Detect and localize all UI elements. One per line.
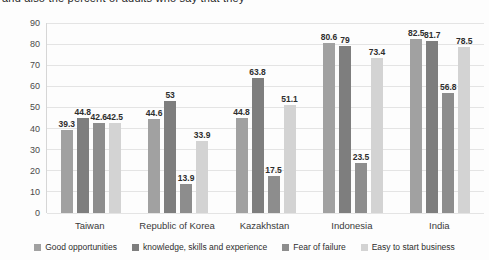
plot-area: 39.344.842.642.544.65313.933.944.863.817… — [46, 23, 484, 213]
bar-value-label: 42.5 — [106, 112, 123, 122]
bar-group-kazakhstan: 44.863.817.551.1 — [222, 23, 309, 213]
bar-wrap: 81.7 — [426, 41, 438, 213]
bar-wrap: 13.9 — [180, 184, 192, 213]
bar-value-label: 17.5 — [265, 165, 282, 175]
x-category-label: Taiwan — [46, 220, 133, 231]
y-tick-label: 30 — [18, 146, 40, 155]
legend-label: knowledge, skills and experience — [143, 242, 267, 252]
bar-group-indonesia: 80.67923.573.4 — [309, 23, 396, 213]
bar — [109, 123, 121, 213]
bar-wrap: 39.3 — [61, 130, 73, 213]
legend-label: Fear of failure — [293, 242, 345, 252]
bar-wrap: 51.1 — [284, 105, 296, 213]
bar-wrap: 79 — [339, 46, 351, 213]
y-tick-label: 0 — [18, 209, 40, 218]
bar-value-label: 51.1 — [281, 94, 298, 104]
bar-wrap: 33.9 — [196, 141, 208, 213]
bar-value-label: 39.3 — [58, 119, 75, 129]
x-category-label: Kazakhstan — [221, 220, 308, 231]
y-tick-label: 70 — [18, 61, 40, 70]
legend-swatch-icon — [282, 244, 289, 251]
bar-value-label: 23.5 — [353, 152, 370, 162]
bar — [268, 176, 280, 213]
bars: 44.65313.933.9 — [148, 23, 208, 213]
bar — [77, 118, 89, 213]
bar-value-label: 56.8 — [440, 82, 457, 92]
bar-value-label: 42.6 — [90, 112, 107, 122]
legend-label: Good opportunities — [45, 242, 117, 252]
bar — [339, 46, 351, 213]
bar-wrap: 44.8 — [236, 118, 248, 213]
bar — [355, 163, 367, 213]
bars: 82.581.756.878.5 — [410, 23, 470, 213]
bar-group-republic-of-korea: 44.65313.933.9 — [134, 23, 221, 213]
bar-value-label: 13.9 — [178, 173, 195, 183]
bar-wrap: 23.5 — [355, 163, 367, 213]
bar-value-label: 44.8 — [74, 107, 91, 117]
bar-wrap: 42.5 — [109, 123, 121, 213]
bar — [93, 123, 105, 213]
bar — [61, 130, 73, 213]
legend-label: Easy to start business — [372, 242, 455, 252]
x-category-label: Indonesia — [308, 220, 395, 231]
bar — [236, 118, 248, 213]
bar-value-label: 73.4 — [369, 47, 386, 57]
bar-wrap: 44.8 — [77, 118, 89, 213]
legend-item: knowledge, skills and experience — [132, 242, 267, 252]
bar-value-label: 81.7 — [424, 30, 441, 40]
bar-wrap: 56.8 — [442, 93, 454, 213]
bar-wrap: 82.5 — [410, 39, 422, 213]
bar — [164, 101, 176, 213]
legend-swatch-icon — [132, 244, 139, 251]
y-tick-label: 10 — [18, 188, 40, 197]
bar-wrap: 42.6 — [93, 123, 105, 213]
y-tick-label: 20 — [18, 167, 40, 176]
bar-group-india: 82.581.756.878.5 — [397, 23, 484, 213]
bar — [284, 105, 296, 213]
bar-group-taiwan: 39.344.842.642.5 — [47, 23, 134, 213]
bar-wrap: 73.4 — [371, 58, 383, 213]
bar-value-label: 63.8 — [249, 67, 266, 77]
bar — [196, 141, 208, 213]
y-tick-label: 40 — [18, 125, 40, 134]
bar-value-label: 80.6 — [321, 32, 338, 42]
bar-value-label: 82.5 — [408, 28, 425, 38]
legend-item: Easy to start business — [361, 242, 455, 252]
bar — [323, 43, 335, 213]
bar — [371, 58, 383, 213]
bar-wrap: 44.6 — [148, 119, 160, 213]
bar — [426, 41, 438, 213]
bar-wrap: 17.5 — [268, 176, 280, 213]
legend: Good opportunitiesknowledge, skills and … — [0, 242, 489, 252]
bars: 39.344.842.642.5 — [61, 23, 121, 213]
bar-wrap: 80.6 — [323, 43, 335, 213]
legend-item: Good opportunities — [34, 242, 117, 252]
y-tick-label: 90 — [18, 19, 40, 28]
chart-screenshot: and also the percent of adults who say t… — [0, 0, 489, 260]
bars: 44.863.817.551.1 — [236, 23, 296, 213]
bar-value-label: 53 — [165, 90, 174, 100]
bar — [442, 93, 454, 213]
bar-value-label: 78.5 — [456, 36, 473, 46]
y-tick-label: 50 — [18, 103, 40, 112]
legend-swatch-icon — [34, 244, 41, 251]
bar-value-label: 33.9 — [194, 130, 211, 140]
y-axis: 0102030405060708090 — [18, 23, 40, 213]
x-category-label: India — [396, 220, 483, 231]
bars: 80.67923.573.4 — [323, 23, 383, 213]
bar — [252, 78, 264, 213]
bar-wrap: 78.5 — [458, 47, 470, 213]
bar-value-label: 44.8 — [233, 107, 250, 117]
grouped-bar-chart: 0102030405060708090 39.344.842.642.544.6… — [0, 0, 489, 260]
x-axis-labels: TaiwanRepublic of KoreaKazakhstanIndones… — [46, 220, 483, 231]
bar — [180, 184, 192, 213]
bar — [410, 39, 422, 213]
bar-value-label: 44.6 — [146, 108, 163, 118]
y-tick-label: 80 — [18, 40, 40, 49]
legend-swatch-icon — [361, 244, 368, 251]
bar-wrap: 63.8 — [252, 78, 264, 213]
y-tick-label: 60 — [18, 82, 40, 91]
bar — [458, 47, 470, 213]
x-category-label: Republic of Korea — [133, 220, 220, 231]
bar-groups: 39.344.842.642.544.65313.933.944.863.817… — [47, 23, 484, 213]
